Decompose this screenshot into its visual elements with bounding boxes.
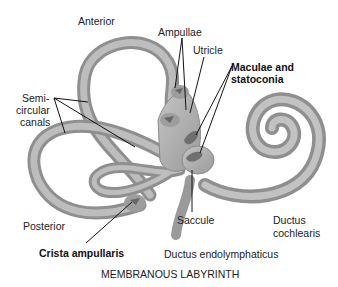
label-anterior: Anterior bbox=[78, 15, 115, 27]
saccule-shape bbox=[182, 146, 214, 174]
label-semicircular-line2: circular bbox=[16, 104, 50, 116]
label-utricle: Utricle bbox=[193, 44, 223, 56]
label-ductus-cochlearis-line1: Ductus bbox=[273, 214, 306, 226]
label-posterior: Posterior bbox=[23, 220, 65, 232]
label-ductus-endolymphaticus: Ductus endolymphaticus bbox=[164, 248, 278, 260]
label-crista-ampullaris: Crista ampullaris bbox=[39, 247, 124, 259]
label-ductus-cochlearis-line2: cochlearis bbox=[273, 227, 320, 239]
label-saccule: Saccule bbox=[177, 214, 214, 226]
label-semicircular-line3: canals bbox=[20, 116, 50, 128]
diagram-title: MEMBRANOUS LABYRINTH bbox=[101, 268, 239, 280]
label-semicircular-line1: Semi- bbox=[22, 92, 49, 104]
label-maculae-line1: Maculae and bbox=[231, 61, 294, 73]
label-maculae-line2: statoconia bbox=[231, 73, 284, 85]
label-ampullae: Ampullae bbox=[158, 26, 202, 38]
ductus-endolymphaticus-shape bbox=[176, 180, 190, 235]
labyrinth-illustration bbox=[0, 0, 338, 287]
